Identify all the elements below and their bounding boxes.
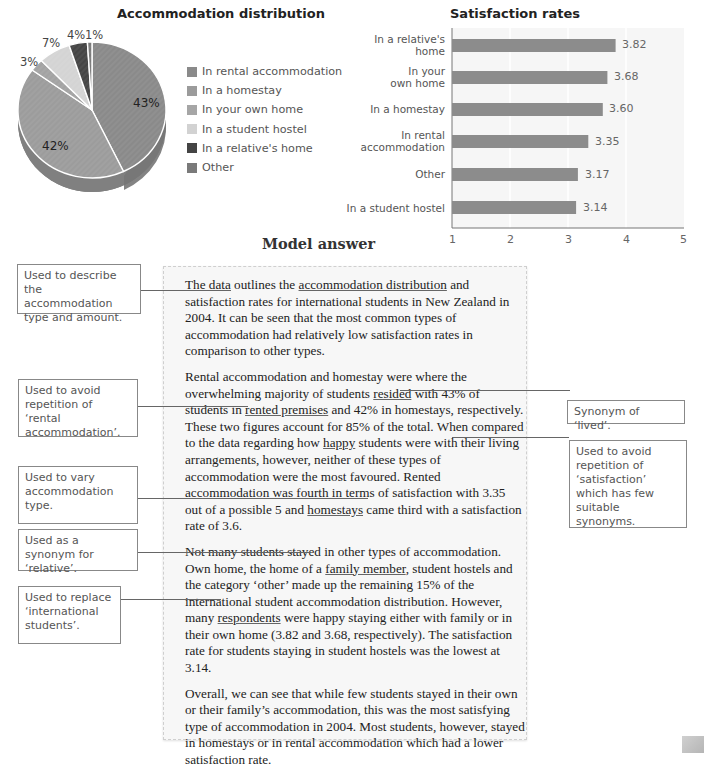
bar-label-other: Other (345, 168, 445, 180)
bar-label-line: In a homestay (345, 103, 445, 115)
connector-line (138, 552, 311, 553)
connector-line (138, 406, 248, 407)
bar-label-rental: In rental accommodation (345, 129, 445, 153)
bar-label-homestay: In a homestay (345, 103, 445, 115)
annotation-accommodation-distribution: Used to describe the accommodation type … (17, 264, 141, 314)
bar-label-line: In a student hostel (345, 202, 445, 214)
answer-paragraph-2: Rental accommodation and homestay were w… (185, 369, 525, 535)
annotation-resided: Synonym of ‘lived’. (567, 400, 685, 424)
bar-value: 3.35 (595, 135, 620, 148)
bar-label-line: In your (345, 65, 445, 77)
legend-item: In rental accommodation (187, 62, 342, 81)
annotation-homestays: Used to vary accommodation type. (18, 466, 138, 524)
bar-label-line: In a relative's (345, 33, 445, 45)
annotation-family-member: Used as a synonym for ‘relative’. (18, 529, 138, 571)
highlighted-phrase: homestays (307, 502, 363, 517)
legend-item: In a homestay (187, 81, 342, 100)
page-corner (682, 736, 704, 753)
bar-label-line: home (345, 45, 445, 57)
answer-paragraph-1: The data outlines the accommodation dist… (185, 277, 525, 360)
legend-label: In a homestay (202, 84, 282, 97)
x-tick: 3 (565, 233, 572, 246)
bar-value: 3.68 (614, 70, 639, 83)
pie-label-own-home: 3% (20, 55, 38, 69)
bar-label-line: In rental (345, 129, 445, 141)
legend-label: In your own home (202, 103, 303, 116)
text: Overall, we can see that while few stude… (185, 686, 525, 767)
legend-item: In a relative's home (187, 139, 342, 158)
pie-label-student-hostel: 7% (42, 36, 60, 50)
bar-rental (452, 135, 588, 148)
bar-label-line: Other (345, 168, 445, 180)
bar-value: 3.17 (585, 168, 610, 181)
bar-other (452, 168, 578, 181)
pie-label-other: 1% (85, 28, 103, 42)
legend-label: Other (202, 161, 234, 174)
highlighted-phrase: happy (323, 435, 355, 450)
highlighted-phrase: rented premises (245, 402, 328, 417)
highlighted-phrase: resided (373, 386, 411, 401)
legend-item: Other (187, 158, 342, 177)
legend-item: In your own home (187, 100, 342, 119)
model-answer-box: The data outlines the accommodation dist… (163, 266, 527, 740)
bar-value: 3.14 (583, 201, 608, 214)
x-tick: 2 (507, 233, 514, 246)
pie-label-rental: 43% (133, 96, 160, 110)
answer-paragraph-3: Not many students stayed in other types … (185, 544, 525, 677)
bar-own-home (452, 71, 607, 84)
connector-line (452, 437, 569, 438)
legend-swatch (187, 143, 197, 153)
legend-swatch (187, 105, 197, 115)
legend-label: In rental accommodation (202, 65, 342, 78)
highlighted-phrase: accommodation distribution (299, 277, 447, 292)
annotation-rented-premises: Used to avoid repetition of ‘rental acco… (18, 379, 138, 437)
x-tick: 1 (449, 233, 456, 246)
connector-line (141, 290, 231, 291)
bar-label-line: own home (345, 77, 445, 89)
legend-label: In a relative's home (202, 142, 313, 155)
model-answer-title: Model answer (262, 235, 375, 252)
x-tick: 4 (623, 233, 630, 246)
bar-value: 3.82 (622, 38, 647, 51)
bar-label-line: accommodation (345, 141, 445, 153)
legend-swatch (187, 163, 197, 173)
legend-label: In a student hostel (202, 123, 307, 136)
annotation-happy: Used to avoid repetition of ‘satisfactio… (569, 440, 687, 528)
bar-chart-title: Satisfaction rates (450, 6, 580, 21)
answer-paragraph-4: Overall, we can see that while few stude… (185, 686, 525, 768)
connector-line (121, 599, 221, 600)
pie-label-relatives-home: 4% (67, 28, 85, 42)
pie-legend: In rental accommodation In a homestay In… (187, 62, 342, 177)
bar-label-student-hostel: In a student hostel (345, 202, 445, 214)
legend-swatch (187, 67, 197, 77)
x-tick: 5 (680, 233, 687, 246)
pie-label-homestay: 42% (42, 139, 69, 153)
connector-line (138, 498, 368, 499)
legend-swatch (187, 86, 197, 96)
highlighted-phrase: family member (325, 561, 405, 576)
connector-line (400, 390, 570, 391)
bar-relatives-home (452, 39, 616, 52)
bar-student-hostel (452, 201, 576, 214)
annotation-respondents: Used to replace ‘international students’… (18, 586, 121, 644)
legend-item: In a student hostel (187, 120, 342, 139)
bar-value: 3.60 (609, 102, 634, 115)
bar-homestay (452, 103, 603, 116)
legend-swatch (187, 124, 197, 134)
bar-chart-plot (440, 25, 704, 235)
highlighted-phrase: respondents (218, 610, 281, 625)
bar-label-own-home: In your own home (345, 65, 445, 89)
bar-label-relatives-home: In a relative's home (345, 33, 445, 57)
